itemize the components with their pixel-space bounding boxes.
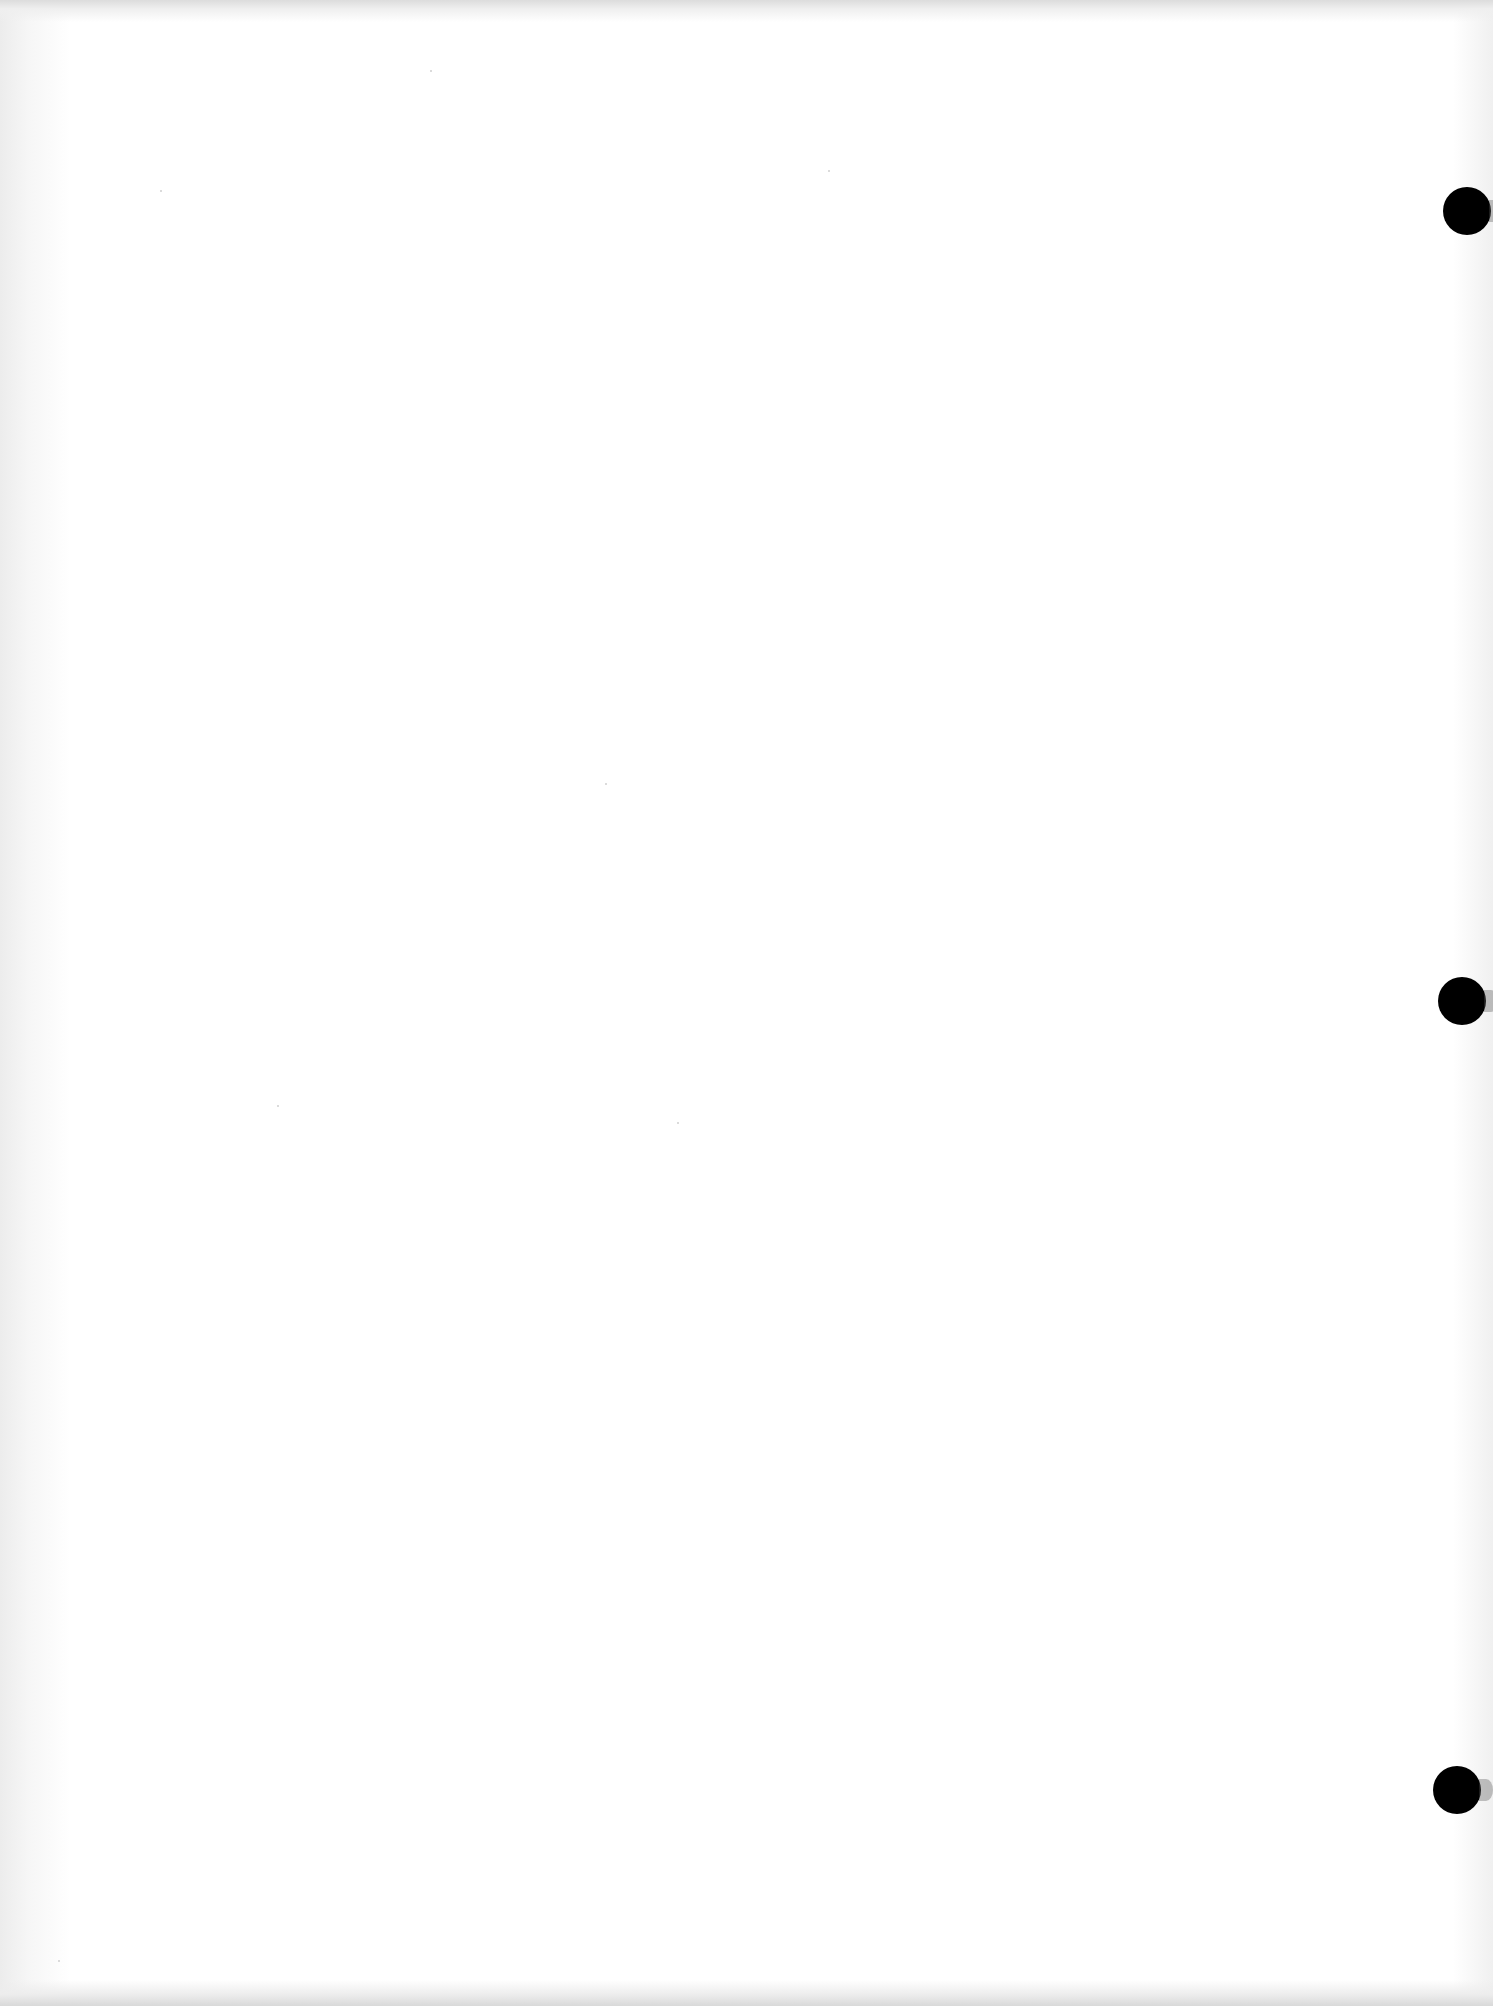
blank-paper-page — [0, 0, 1493, 2006]
scan-edge-shadow-left — [0, 0, 70, 2006]
scan-speck — [58, 1960, 60, 1962]
punch-hole-bottom — [1433, 1766, 1481, 1814]
scan-speck — [677, 1122, 679, 1124]
scan-speck — [605, 783, 607, 785]
scan-edge-shadow-bottom — [0, 1980, 1493, 2006]
scan-speck — [430, 70, 432, 72]
punch-hole-top — [1443, 187, 1491, 235]
scan-speck — [160, 190, 162, 192]
scan-speck — [828, 170, 830, 172]
scan-edge-shadow-top — [0, 0, 1493, 22]
punch-hole-middle — [1438, 977, 1486, 1025]
scan-speck — [277, 1105, 279, 1107]
